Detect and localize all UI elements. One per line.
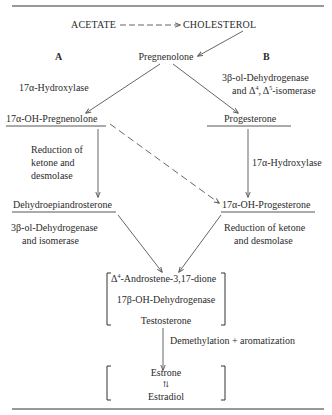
- enzyme-3b-ol-dehydrogenase-b-line2: and Δ4, Δ5-isomerase: [232, 85, 316, 97]
- androstenedione-node: Δ4-Androstene-3,17-dione: [111, 273, 216, 285]
- pathway-a-label: A: [55, 51, 62, 63]
- delta-text: , Δ: [258, 85, 269, 96]
- enzyme-demethylation-aromatization: Demethylation + aromatization: [170, 335, 295, 347]
- cholesterol-label: CHOLESTEROL: [183, 19, 256, 31]
- acetate-label: ACETATE: [71, 19, 116, 31]
- enzyme-reduction-left-line1: Reduction of: [31, 144, 83, 156]
- enzyme-reduction-right-line2: and desmolase: [234, 235, 293, 247]
- enzyme-3b-ol-dehydrogenase-b-line1: 3β-ol-Dehydrogenase: [222, 72, 309, 84]
- enzyme-3b-ol-dehydrogenase-a-line2: and isomerase: [22, 235, 79, 247]
- pathway-diagram: ACETATE CHOLESTEROL A Pregnenolone B 17α…: [0, 0, 332, 415]
- enzyme-17a-hydroxylase-left: 17α-Hydroxylase: [19, 82, 89, 94]
- testosterone-node: Testosterone: [107, 315, 225, 327]
- dhea-node: Dehydroepiandrosterone: [13, 199, 112, 211]
- isomerase-text: -isomerase: [272, 85, 315, 96]
- enzyme-17b-oh-dehydrogenase: 17β-OH-Dehydrogenase: [107, 294, 225, 306]
- delta-text: and Δ: [232, 85, 255, 96]
- enzyme-reduction-right-line1: Reduction of ketone: [224, 222, 305, 234]
- pregnenolone-node: Pregnenolone: [126, 51, 206, 63]
- 17oh-progesterone-to-androstenedione-arrow: [179, 215, 221, 272]
- androstenedione-text: -Androstene-3,17-dione: [120, 273, 216, 284]
- 17oh-pregnenolone-node: 17α-OH-Pregnenolone: [6, 113, 97, 125]
- equilibrium-arrows-icon: ⇅: [107, 379, 225, 391]
- dhea-to-androstenedione-arrow: [118, 215, 162, 272]
- pregnenolone-to-17oh-pregnenolone-arrow: [86, 64, 160, 113]
- enzyme-reduction-left-line3: desmolase: [31, 170, 73, 182]
- estradiol-node: Estradiol: [107, 391, 225, 403]
- pathway-b-label: B: [263, 51, 270, 63]
- estrone-node: Estrone: [107, 367, 225, 379]
- enzyme-reduction-left-line2: ketone and: [31, 157, 75, 169]
- enzyme-3b-ol-dehydrogenase-a-line1: 3β-ol-Dehydrogenase: [11, 222, 98, 234]
- 17oh-progesterone-node: 17α-OH-Progesterone: [222, 199, 311, 211]
- progesterone-node: Progesterone: [224, 113, 276, 125]
- enzyme-17a-hydroxylase-right: 17α-Hydroxylase: [252, 157, 322, 169]
- 17oh-pregnenolone-to-17oh-progesterone-dashed-arrow: [110, 124, 219, 203]
